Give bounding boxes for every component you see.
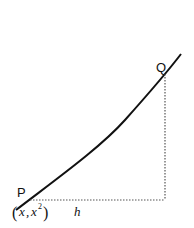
h-label: h	[74, 204, 81, 219]
coord-y-exponent: 2	[38, 202, 42, 211]
coord-x: x	[18, 204, 25, 219]
svg-text:): )	[43, 204, 48, 222]
point-p-label: P	[17, 185, 26, 200]
svg-text:(: (	[12, 204, 17, 222]
svg-text:,: ,	[26, 204, 29, 219]
coord-y: x	[30, 204, 37, 219]
diagram-canvas: P Q ( x , x 2 ) h	[0, 0, 194, 228]
point-p-coordinates: ( x , x 2 )	[12, 202, 48, 222]
curve-y-equals-x-squared	[16, 54, 181, 210]
point-q-label: Q	[156, 60, 166, 75]
